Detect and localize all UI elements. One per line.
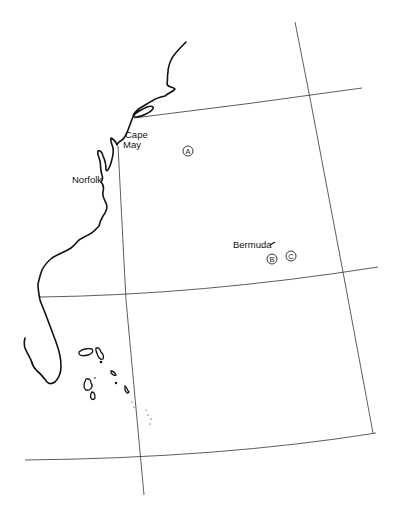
marker-letter: B — [269, 255, 274, 264]
island-andros — [84, 379, 92, 391]
place-labels: Cape May Norfolk Bermuda — [72, 129, 272, 250]
site-marker-a: A — [183, 146, 193, 156]
islet — [115, 382, 117, 384]
islet — [150, 418, 151, 419]
islet — [133, 406, 134, 407]
island-grand-bahama — [79, 349, 93, 356]
marker-letter: C — [288, 252, 294, 261]
coastline — [24, 42, 186, 384]
us-east-coastline — [24, 42, 186, 384]
island-long-island — [125, 386, 129, 393]
islet — [100, 361, 103, 364]
island-andros-south — [91, 392, 95, 400]
islet — [94, 377, 96, 379]
label-norfolk: Norfolk — [72, 174, 102, 185]
meridian-east — [295, 22, 373, 433]
islands — [79, 242, 275, 425]
label-bermuda: Bermuda — [233, 239, 272, 250]
islet — [149, 423, 150, 424]
meridian-west — [118, 146, 144, 495]
island-abaco — [96, 348, 104, 360]
island-eleuthera — [111, 371, 116, 375]
parallel-south — [25, 433, 376, 460]
islet — [131, 401, 132, 402]
islet — [145, 409, 146, 410]
marker-letter: A — [185, 147, 190, 156]
islet — [147, 414, 148, 415]
graticule — [25, 22, 378, 495]
site-marker-c: C — [286, 251, 296, 261]
parallel-middle — [40, 267, 378, 297]
parallel-north — [134, 88, 362, 118]
label-cape-may-line2: May — [123, 139, 141, 150]
site-marker-b: B — [267, 254, 277, 264]
map-canvas: Cape May Norfolk Bermuda A B C — [0, 0, 396, 514]
